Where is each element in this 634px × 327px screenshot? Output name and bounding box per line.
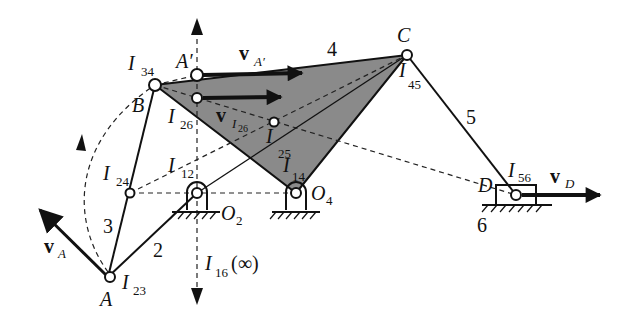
svg-text:45: 45 (408, 77, 421, 92)
svg-text:I: I (507, 159, 516, 181)
svg-text:24: 24 (116, 174, 130, 189)
pin-I26 (192, 93, 202, 103)
link-2 (108, 193, 197, 277)
down-arrowhead-icon (191, 288, 203, 305)
svg-text:O: O (311, 182, 325, 204)
svg-text:v: v (44, 235, 54, 257)
label-D: D (477, 174, 493, 196)
pin-O2 (192, 188, 202, 198)
svg-text:56: 56 (518, 170, 532, 185)
mechanism-instant-centers-diagram: C A′ B A D O 2 O 4 I 34 I 26 I 25 I 24 I… (0, 0, 634, 327)
label-I24: I 24 (102, 162, 130, 189)
up-arrowhead-icon (191, 18, 203, 35)
label-v-A: v A (44, 235, 66, 261)
svg-text:D: D (564, 176, 575, 191)
pin-D (511, 190, 521, 200)
svg-text:I: I (204, 252, 213, 274)
svg-text:O: O (221, 202, 235, 224)
svg-text:26: 26 (180, 117, 194, 132)
label-I16-infinity: I 16 (∞) (204, 252, 259, 280)
link-number-6: 6 (477, 214, 487, 236)
label-I56: I 56 (507, 159, 532, 185)
svg-text:A′: A′ (253, 54, 265, 69)
label-v-A-prime: v A′ (239, 42, 265, 69)
svg-text:26: 26 (238, 123, 248, 134)
svg-text:34: 34 (141, 64, 155, 79)
arc-arrowhead-icon (76, 134, 86, 151)
svg-text:A: A (57, 246, 66, 261)
label-I34: I 34 (127, 52, 155, 79)
svg-text:I: I (167, 154, 176, 176)
label-I12: I 12 (167, 154, 194, 181)
label-v-D: v D (550, 165, 575, 191)
velocity-vector-I26 (203, 97, 281, 98)
svg-text:14: 14 (292, 169, 306, 184)
svg-text:23: 23 (133, 283, 146, 298)
svg-text:I: I (127, 52, 136, 74)
svg-text:I: I (398, 59, 407, 81)
link-number-3: 3 (103, 215, 113, 237)
pin-O4 (291, 188, 301, 198)
svg-text:v: v (216, 104, 226, 126)
link-number-5: 5 (466, 106, 476, 128)
svg-text:I: I (102, 162, 111, 184)
label-I23: I 23 (121, 271, 146, 298)
svg-text:16: 16 (215, 265, 229, 280)
pin-B (149, 79, 161, 91)
svg-text:I: I (231, 116, 237, 131)
label-A-prime: A′ (174, 50, 193, 72)
svg-text:I: I (121, 271, 130, 293)
label-A: A (98, 288, 113, 310)
pin-A-prime (191, 69, 203, 81)
svg-text:4: 4 (326, 193, 333, 208)
svg-text:v: v (550, 165, 560, 187)
link-number-4: 4 (327, 38, 337, 60)
link-5 (407, 55, 516, 195)
label-O4: O 4 (311, 182, 333, 208)
svg-text:v: v (239, 42, 249, 64)
svg-text:(∞): (∞) (231, 252, 259, 275)
pin-I24 (126, 189, 135, 198)
label-B: B (132, 94, 144, 116)
label-O2: O 2 (221, 202, 243, 228)
svg-text:2: 2 (236, 213, 243, 228)
label-C: C (397, 24, 411, 46)
svg-text:12: 12 (181, 166, 194, 181)
pin-A (105, 272, 115, 282)
link-number-2: 2 (153, 239, 163, 261)
velocity-vector-A-prime (203, 73, 302, 75)
svg-text:I: I (282, 154, 291, 176)
svg-text:I: I (167, 105, 176, 127)
svg-text:I: I (265, 125, 274, 147)
label-I45: I 45 (398, 59, 421, 92)
